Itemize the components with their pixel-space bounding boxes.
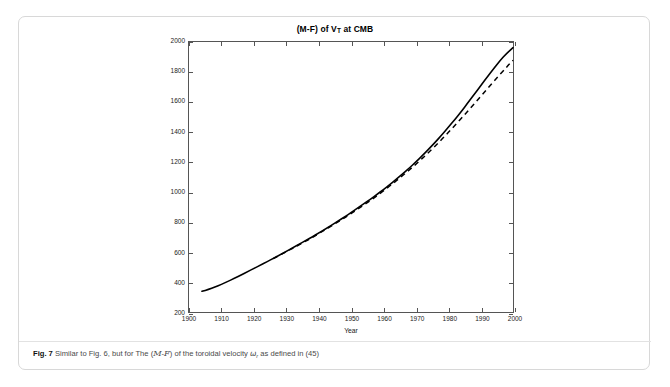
caption-text-middle: ) of the toroidal velocity	[170, 349, 250, 358]
x-tick-label: 1920	[247, 315, 261, 322]
figure-caption: Fig. 7 Similar to Fig. 6, but for The (M…	[33, 348, 633, 362]
x-axis-label: Year	[188, 327, 514, 334]
y-tick-label: 1600	[171, 97, 185, 104]
x-tick-label: 1960	[377, 315, 391, 322]
x-tick-label: 2000	[508, 315, 522, 322]
y-tick-label: 1000	[171, 188, 185, 195]
series-solid-line	[202, 48, 513, 292]
x-tick-label: 1940	[312, 315, 326, 322]
chart-plot-area: (M-F) of VT at CMB 200400600800100012001…	[19, 17, 651, 327]
x-tick-label: 1970	[410, 315, 424, 322]
x-tick-label: 1950	[345, 315, 359, 322]
y-tick-label: 1800	[171, 67, 185, 74]
chart-axes-frame: 200400600800100012001400160018002000 190…	[188, 41, 514, 313]
y-tick-label: 1200	[171, 158, 185, 165]
caption-divider	[19, 341, 651, 342]
chart-title: (M-F) of VT at CMB	[19, 24, 651, 34]
caption-symbol-m: M	[153, 348, 161, 358]
chart-title-main: (M-F) of V	[297, 24, 337, 34]
chart-title-tail: at CMB	[341, 24, 373, 34]
x-tick-mark-top	[515, 42, 516, 46]
y-tick-label: 1400	[171, 128, 185, 135]
x-tick-label: 1900	[182, 315, 196, 322]
y-tick-label: 800	[174, 218, 185, 225]
x-tick-label: 1930	[280, 315, 294, 322]
caption-text-before: Similar to Fig. 6, but for The (	[55, 349, 153, 358]
y-tick-label: 400	[174, 279, 185, 286]
x-tick-label: 1980	[443, 315, 457, 322]
y-tick-label: 600	[174, 249, 185, 256]
y-tick-label: 2000	[171, 37, 185, 44]
figure-card: (M-F) of VT at CMB 200400600800100012001…	[18, 16, 650, 370]
x-tick-label: 1990	[475, 315, 489, 322]
chart-curves	[189, 42, 513, 312]
x-tick-label: 1910	[214, 315, 228, 322]
caption-text-after: as defined in (45)	[258, 349, 319, 358]
figure-label: Fig. 7	[33, 349, 53, 358]
x-tick-mark	[515, 308, 516, 312]
